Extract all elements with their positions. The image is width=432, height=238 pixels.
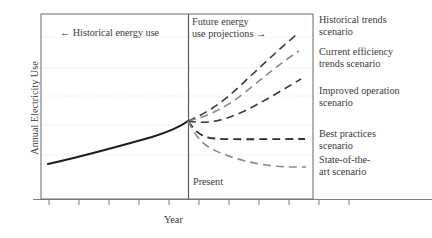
grid-lines <box>41 37 313 155</box>
legend-label-line1: Historical trends <box>319 14 387 25</box>
legend-item-improved-operation: Improved operationscenario <box>319 85 400 108</box>
series-state-of-the-art <box>188 121 306 167</box>
legend-item-historical-trends: Historical trendsscenario <box>319 14 387 37</box>
series-historical-energy-use <box>48 121 188 164</box>
legend-item-current-efficiency: Current efficiencytrends scenario <box>319 46 393 69</box>
legend-label-line2: art scenario <box>319 166 366 177</box>
legend-item-best-practices: Best practicesscenario <box>319 128 376 151</box>
legend-label-line1: Current efficiency <box>319 46 393 57</box>
x-axis-title: Year <box>164 214 183 226</box>
present-label: Present <box>193 176 223 188</box>
future-region-annotation: Future energyuse projections → <box>192 16 266 40</box>
legend-item-state-of-the-art: State-of-the-art scenario <box>319 154 370 177</box>
historical-region-annotation: ← Historical energy use <box>60 27 159 39</box>
y-axis-title: Annual Electricity Use <box>29 33 41 183</box>
legend-label-line2: scenario <box>319 140 353 151</box>
chart-figure: ← Historical energy use Future energyuse… <box>0 0 432 238</box>
future-region-line2: use projections → <box>192 28 266 39</box>
x-axis-ticks <box>49 200 349 206</box>
legend-label-line1: Improved operation <box>319 85 400 96</box>
legend-label-line2: trends scenario <box>319 58 380 69</box>
plot-frame <box>41 14 313 199</box>
series-historical-trends <box>188 35 296 121</box>
future-region-line1: Future energy <box>192 16 249 27</box>
series-best-practices <box>188 121 305 139</box>
legend-label-line2: scenario <box>319 26 353 37</box>
legend-label-line1: State-of-the- <box>319 154 370 165</box>
legend-label-line1: Best practices <box>319 128 376 139</box>
legend-label-line2: scenario <box>319 97 353 108</box>
